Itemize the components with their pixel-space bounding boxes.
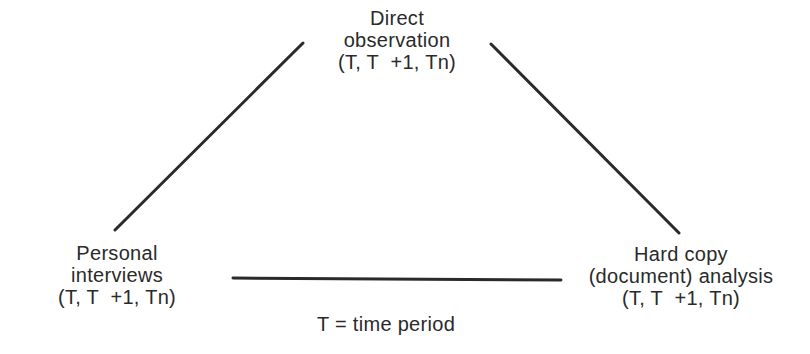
node-title-line-1: Personal: [58, 242, 176, 264]
node-title-line-2: observation: [338, 29, 456, 51]
node-title-line-2: interviews: [58, 264, 176, 286]
edge-left-to-top: [115, 43, 303, 230]
edge-top-to-right: [491, 44, 679, 233]
node-direct-observation: Direct observation (T, T +1, Tn): [338, 7, 456, 73]
node-title-line-2: (document) analysis: [589, 265, 774, 287]
node-time-periods: (T, T +1, Tn): [589, 287, 774, 309]
node-time-periods: (T, T +1, Tn): [338, 51, 456, 73]
node-hard-copy-analysis: Hard copy (document) analysis (T, T +1, …: [589, 243, 774, 309]
node-time-periods: (T, T +1, Tn): [58, 286, 176, 308]
legend-time-period: T = time period: [317, 313, 455, 335]
node-personal-interviews: Personal interviews (T, T +1, Tn): [58, 242, 176, 308]
node-title-line-1: Hard copy: [589, 243, 774, 265]
edge-left-to-right: [233, 278, 561, 280]
node-title-line-1: Direct: [338, 7, 456, 29]
